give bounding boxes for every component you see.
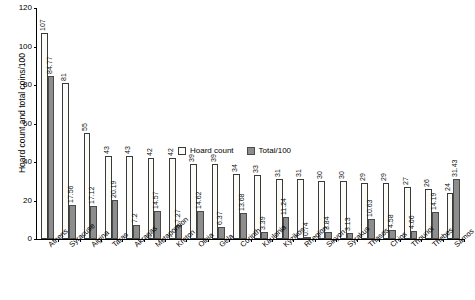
y-axis-tick-mark — [34, 162, 37, 163]
y-axis-tick-mark — [34, 239, 37, 240]
bar-value-label: 17.12 — [88, 187, 95, 205]
y-axis-tick-label: 20 — [11, 197, 32, 205]
bar-value-label: 24 — [444, 183, 451, 191]
bar-value-label: 107 — [39, 19, 46, 31]
bar-value-label: 39 — [188, 154, 195, 162]
bar-value-label: 43 — [124, 146, 131, 154]
y-axis-tick-label: 60 — [11, 120, 32, 128]
bar-value-label: 4.58 — [387, 215, 394, 229]
bar-value-label: 17.56 — [67, 186, 74, 204]
bar-value-label: 4.06 — [408, 216, 415, 230]
bar-value-label: 39 — [210, 154, 217, 162]
bar-total-100 — [112, 200, 119, 239]
bar-value-label: 13.68 — [238, 193, 245, 211]
bar-value-label: 14.57 — [152, 191, 159, 209]
legend-label-total-100: Total/100 — [259, 146, 291, 155]
y-axis-tick-label: 80 — [11, 81, 32, 89]
bar-value-label: 84.77 — [46, 56, 53, 74]
bar-value-label: 27 — [402, 177, 409, 185]
y-axis-tick-label: 40 — [11, 158, 32, 166]
bar-value-label: 3.39 — [259, 217, 266, 231]
plot-area: 02040608010012010784.778117.565517.12432… — [36, 8, 464, 240]
legend-label-hoard-count: Hoard count — [190, 146, 234, 155]
legend-swatch-total-100 — [247, 147, 255, 155]
bar-value-label: 42 — [167, 148, 174, 156]
y-axis-tick-label: 0 — [11, 235, 32, 243]
y-axis-tick-mark — [34, 124, 37, 125]
bar-value-label: 31 — [274, 170, 281, 178]
bar-value-label: 7.2 — [131, 213, 138, 223]
bar-value-label: 26 — [423, 179, 430, 187]
y-axis-tick-label: 120 — [11, 4, 32, 12]
bar-hoard-count — [212, 164, 219, 239]
bar-value-label: 3.13 — [344, 217, 351, 231]
bar-value-label: 55 — [81, 123, 88, 131]
y-axis-tick-label: 100 — [11, 43, 32, 51]
y-axis-tick-mark — [34, 85, 37, 86]
bar-value-label: 6.37 — [216, 211, 223, 225]
bar-hoard-count — [62, 83, 69, 239]
legend-item-total-100: Total/100 — [247, 146, 291, 155]
bar-value-label: 14.62 — [195, 191, 202, 209]
chart-legend: Hoard count Total/100 — [178, 146, 291, 155]
bar-value-label: 31.43 — [451, 159, 458, 177]
bar-hoard-count — [126, 156, 133, 239]
bar-value-label: 31 — [295, 170, 302, 178]
y-axis-tick-mark — [34, 201, 37, 202]
bar-value-label: 20.19 — [110, 181, 117, 199]
bar-value-label: 14.19 — [430, 192, 437, 210]
bar-value-label: 43 — [103, 146, 110, 154]
bar-value-label: 29 — [380, 173, 387, 181]
bar-value-label: 42 — [146, 148, 153, 156]
legend-item-hoard-count: Hoard count — [178, 146, 234, 155]
bar-value-label: 10.63 — [366, 199, 373, 217]
bar-chart: Hoard count and total coins/100 02040608… — [0, 0, 475, 300]
bar-value-label: 30 — [316, 171, 323, 179]
bar-value-label: 34 — [231, 164, 238, 172]
bar-value-label: 81 — [60, 73, 67, 81]
bar-value-label: 33 — [252, 166, 259, 174]
y-axis-tick-mark — [34, 47, 37, 48]
bar-value-label: 29 — [359, 173, 366, 181]
bar-total-100 — [453, 179, 460, 240]
y-axis-tick-mark — [34, 8, 37, 9]
bar-value-label: 11.24 — [280, 198, 287, 215]
bar-value-label: 30 — [338, 171, 345, 179]
legend-swatch-hoard-count — [178, 147, 186, 155]
bar-total-100 — [48, 76, 55, 239]
